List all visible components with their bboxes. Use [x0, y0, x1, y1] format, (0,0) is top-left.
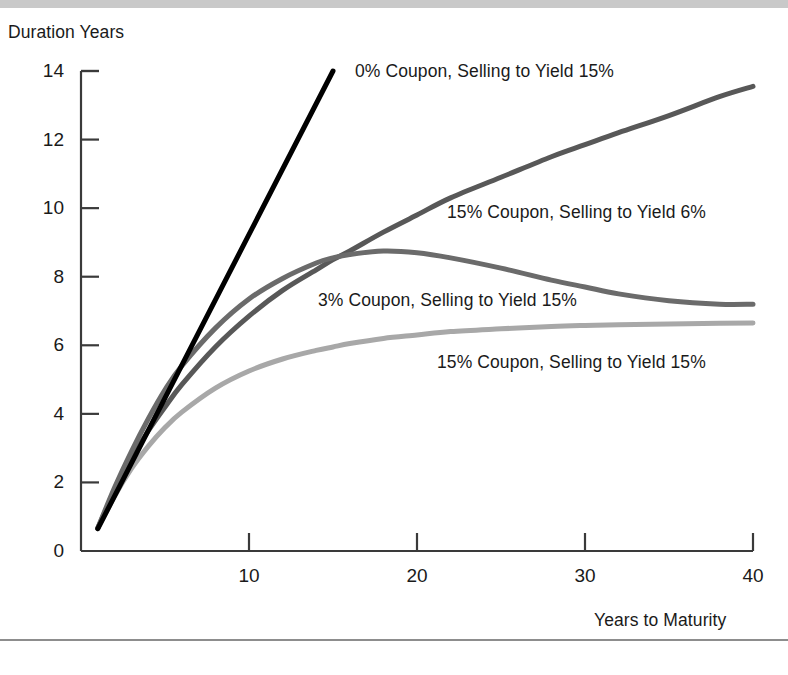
bottom-divider-rule — [0, 639, 788, 641]
x-axis-title: Years to Maturity — [594, 610, 726, 631]
x-tick-label: 10 — [224, 566, 274, 585]
series-line — [98, 71, 333, 529]
axes-lines — [81, 71, 753, 551]
x-tick-label: 40 — [728, 566, 778, 585]
y-tick-label: 14 — [30, 61, 64, 80]
series-label: 3% Coupon, Selling to Yield 15% — [318, 291, 577, 309]
series-label: 15% Coupon, Selling to Yield 15% — [437, 353, 706, 371]
y-tick-label: 0 — [30, 541, 64, 560]
y-tick-label: 6 — [30, 335, 64, 354]
chart-figure: Duration Years 02468101214 10203040 0% C… — [0, 0, 788, 675]
y-tick-label: 4 — [30, 404, 64, 423]
y-tick-label: 8 — [30, 267, 64, 286]
y-axis-ticks — [81, 71, 99, 482]
x-tick-label: 30 — [560, 566, 610, 585]
y-tick-label: 12 — [30, 130, 64, 149]
y-tick-label: 2 — [30, 472, 64, 491]
series-label: 0% Coupon, Selling to Yield 15% — [355, 62, 614, 80]
y-tick-label: 10 — [30, 198, 64, 217]
x-tick-label: 20 — [392, 566, 442, 585]
x-axis-ticks — [249, 533, 585, 551]
series-label: 15% Coupon, Selling to Yield 6% — [447, 203, 706, 221]
